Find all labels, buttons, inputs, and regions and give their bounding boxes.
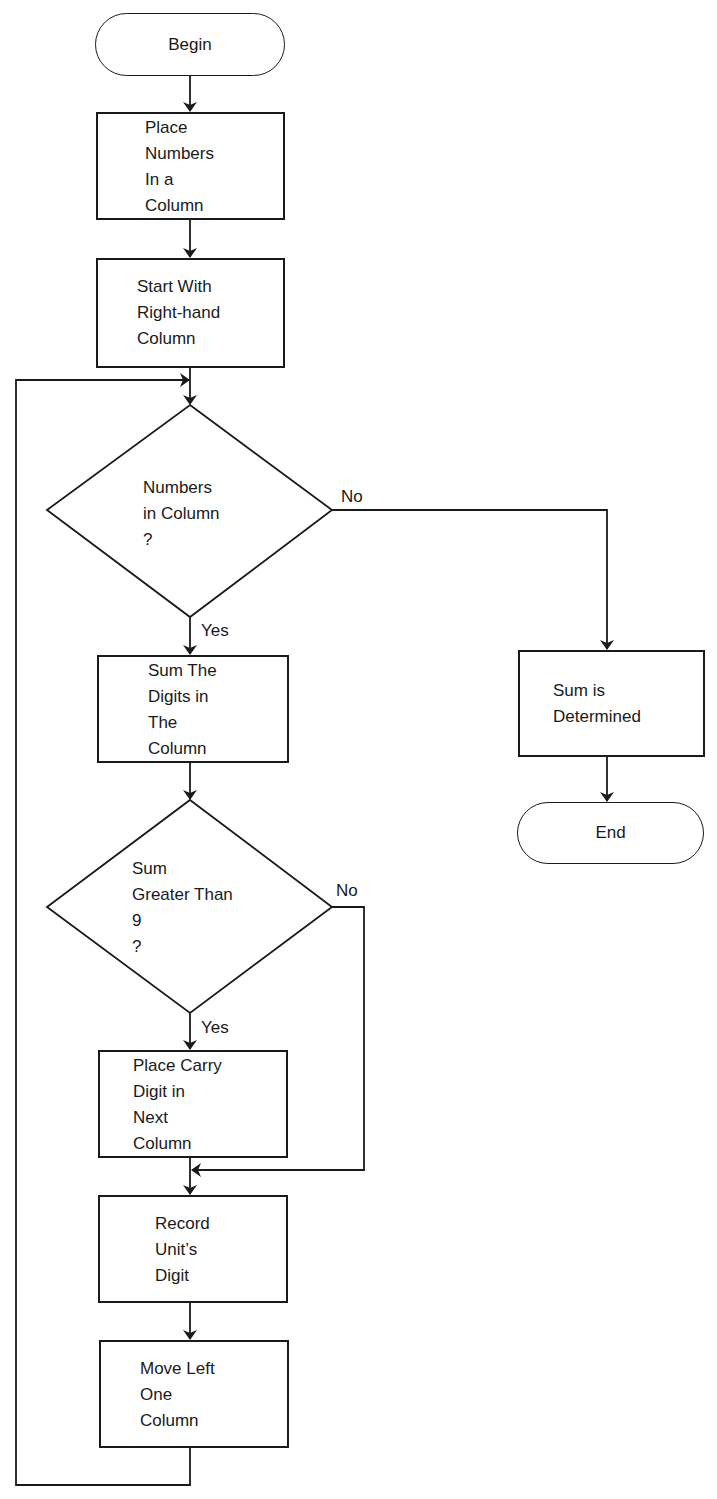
- terminal-begin: Begin: [95, 13, 285, 76]
- decision-sum-greater-label: Sum Greater Than 9 ?: [132, 856, 233, 960]
- process-record-units-label: Record Unit’s Digit: [155, 1211, 210, 1289]
- terminal-begin-label: Begin: [168, 35, 211, 55]
- edge-label-d1-yes: Yes: [201, 621, 229, 641]
- process-sum-determined: Sum is Determined: [518, 650, 705, 757]
- process-place-numbers-label: Place Numbers In a Column: [145, 115, 214, 219]
- process-move-left-label: Move Left One Column: [140, 1356, 215, 1434]
- process-place-numbers: Place Numbers In a Column: [96, 112, 285, 220]
- terminal-end-label: End: [595, 823, 625, 843]
- process-sum-determined-label: Sum is Determined: [553, 678, 641, 730]
- edge-label-d2-yes: Yes: [201, 1018, 229, 1038]
- process-record-units: Record Unit’s Digit: [98, 1195, 288, 1303]
- process-sum-digits-label: Sum The Digits in The Column: [148, 658, 217, 762]
- process-move-left: Move Left One Column: [99, 1340, 289, 1448]
- terminal-end: End: [517, 802, 704, 864]
- process-sum-digits: Sum The Digits in The Column: [97, 655, 289, 763]
- edge-label-d2-no: No: [336, 881, 358, 901]
- edge-label-d1-no: No: [341, 487, 363, 507]
- process-start-right-column-label: Start With Right-hand Column: [137, 274, 220, 352]
- process-start-right-column: Start With Right-hand Column: [96, 258, 285, 368]
- process-place-carry-label: Place Carry Digit in Next Column: [133, 1053, 222, 1157]
- arrow-d1-no: [332, 510, 607, 649]
- decision-numbers-in-column-label: Numbers in Column ?: [143, 475, 220, 553]
- process-place-carry: Place Carry Digit in Next Column: [98, 1050, 288, 1158]
